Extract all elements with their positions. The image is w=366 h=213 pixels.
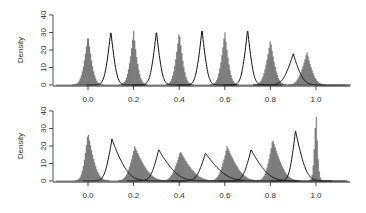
- x-tick-label: 1.0: [310, 95, 322, 104]
- x-tick-label: 1.0: [310, 191, 322, 200]
- bottom-panel: 010203040 0.00.20.40.60.81.0 Density: [16, 106, 350, 200]
- x-tick-label: 0.2: [128, 95, 140, 104]
- y-tick-label: 40: [39, 106, 48, 115]
- top-y-ticks: 010203040: [39, 10, 53, 87]
- bottom-y-ticks: 010203040: [39, 106, 53, 183]
- x-tick-label: 0.4: [174, 95, 186, 104]
- bottom-x-ticks: 0.00.20.40.60.81.0: [82, 182, 322, 200]
- chart-figure: 010203040 0.00.20.40.60.81.0 Density 010…: [0, 0, 366, 213]
- x-tick-label: 0.2: [128, 191, 140, 200]
- bottom-plot-area: [56, 117, 348, 181]
- histogram-peak: [73, 39, 104, 85]
- y-tick-label: 10: [39, 63, 48, 72]
- y-tick-label: 20: [39, 45, 48, 54]
- histogram-peak: [288, 53, 326, 86]
- y-tick-label: 20: [39, 141, 48, 150]
- histogram-peak: [118, 146, 169, 181]
- top-plot-area: [56, 31, 351, 85]
- x-tick-label: 0.6: [219, 191, 231, 200]
- top-panel: 010203040 0.00.20.40.60.81.0 Density: [16, 10, 351, 104]
- y-tick-label: 30: [39, 28, 48, 37]
- histogram-peak: [210, 146, 261, 181]
- histogram-peak: [309, 117, 323, 181]
- x-tick-label: 0.8: [265, 191, 277, 200]
- histogram-peak: [165, 35, 194, 85]
- histogram-peak: [256, 141, 301, 181]
- y-tick-label: 0: [39, 82, 48, 87]
- y-tick-label: 30: [39, 124, 48, 133]
- y-tick-label: 10: [39, 159, 48, 168]
- bottom-y-axis-title: Density: [16, 133, 25, 160]
- x-tick-label: 0.8: [265, 95, 277, 104]
- x-tick-label: 0.6: [219, 95, 231, 104]
- x-tick-label: 0.4: [174, 191, 186, 200]
- histogram-peak: [210, 32, 239, 85]
- y-tick-label: 40: [39, 10, 48, 19]
- y-tick-label: 0: [39, 178, 48, 183]
- x-tick-label: 0.0: [82, 191, 94, 200]
- histogram-peak: [119, 31, 148, 85]
- histogram-peak: [254, 42, 287, 86]
- top-y-axis-title: Density: [16, 37, 25, 64]
- x-tick-label: 0.0: [82, 95, 94, 104]
- top-x-ticks: 0.00.20.40.60.81.0: [82, 86, 322, 104]
